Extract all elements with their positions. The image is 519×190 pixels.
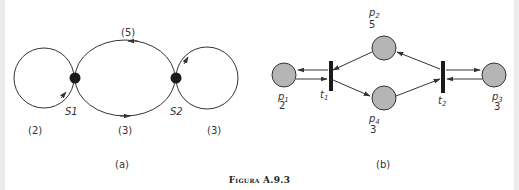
transition-t1 [329,61,333,91]
right-loop [176,47,238,109]
place-p3-tokens: 3 [494,101,500,112]
arc-t2-to-p2 [397,52,440,69]
node-s1-label: S1 [65,106,78,117]
panel-a-label: (a) [115,159,129,170]
arc-p2-to-t1 [333,52,372,70]
middle-ellipse [75,40,175,116]
place-p2 [372,36,396,60]
transition-t1-label: t1 [320,89,328,102]
panel-b-label: (b) [376,159,390,170]
node-s1 [70,73,81,84]
caption-number: A.9.3 [263,175,290,185]
place-p2-tokens: 5 [369,19,375,30]
figure-canvas: S1 S2 (2) (5) (3) (3) (a) p1 2 p2 [0,0,519,190]
left-loop-arrow-icon [61,92,66,98]
transition-t2-label: t2 [438,95,447,108]
arc-p4-to-t2 [396,79,440,96]
node-s2 [171,73,182,84]
place-p1 [272,63,296,87]
panel-b: p1 2 p2 5 p4 3 p3 3 t1 t2 (b) [272,7,506,170]
left-loop [14,48,74,108]
caption-prefix: Figura [229,175,260,185]
transition-t2 [441,61,445,93]
left-loop-weight: (2) [28,125,42,136]
place-p1-tokens: 2 [279,100,285,111]
place-p3 [482,63,506,87]
figure-caption: Figura A.9.3 [0,175,519,185]
bottom-arc-weight: (3) [118,125,132,136]
place-p4-tokens: 3 [370,124,376,135]
node-s2-label: S2 [170,106,183,117]
top-arc-weight: (5) [121,27,135,38]
right-loop-weight: (3) [207,125,221,136]
panel-a: S1 S2 (2) (5) (3) (3) (a) [14,27,238,170]
right-loop-arrow-icon [184,57,188,64]
place-p4 [372,86,396,110]
arc-t1-to-p4 [333,80,370,96]
